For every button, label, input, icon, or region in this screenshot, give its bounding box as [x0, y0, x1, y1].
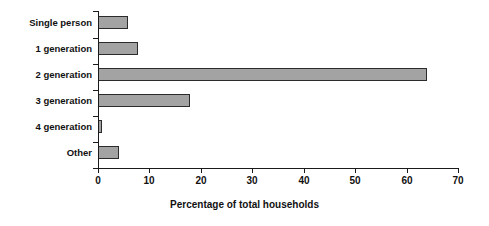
x-axis-tick-label-60: 60: [387, 175, 427, 186]
x-axis-tick: [252, 169, 253, 173]
x-axis-title: Percentage of total households: [0, 199, 489, 210]
x-axis-tick: [149, 169, 150, 173]
category-label-2-generation: 2 generation: [0, 69, 92, 80]
category-label-single-person: Single person: [0, 17, 92, 28]
category-label-3-generation: 3 generation: [0, 95, 92, 106]
x-axis-tick: [355, 169, 356, 173]
x-axis-tick-label-70: 70: [438, 175, 478, 186]
y-axis-line: [98, 11, 99, 169]
x-axis-tick-label-50: 50: [335, 175, 375, 186]
bar-other: [98, 146, 119, 159]
x-axis-tick: [458, 169, 459, 173]
x-axis-tick-label-10: 10: [129, 175, 169, 186]
plot-area: [98, 12, 458, 168]
x-axis-line: [98, 168, 459, 169]
bar-1-generation: [98, 42, 138, 55]
bar-2-generation: [98, 68, 427, 81]
bar-3-generation: [98, 94, 190, 107]
x-axis-tick-label-0: 0: [78, 175, 118, 186]
category-label-4-generation: 4 generation: [0, 121, 92, 132]
x-axis-tick: [98, 169, 99, 173]
x-axis-tick-label-20: 20: [181, 175, 221, 186]
category-label-1-generation: 1 generation: [0, 43, 92, 54]
x-axis-tick-label-40: 40: [284, 175, 324, 186]
x-axis-tick: [407, 169, 408, 173]
bar-single-person: [98, 16, 128, 29]
x-axis-tick: [304, 169, 305, 173]
x-axis-tick-label-30: 30: [232, 175, 272, 186]
x-axis-tick: [201, 169, 202, 173]
category-label-other: Other: [0, 147, 92, 158]
bar-chart-figure: Single person 1 generation 2 generation …: [0, 0, 489, 226]
